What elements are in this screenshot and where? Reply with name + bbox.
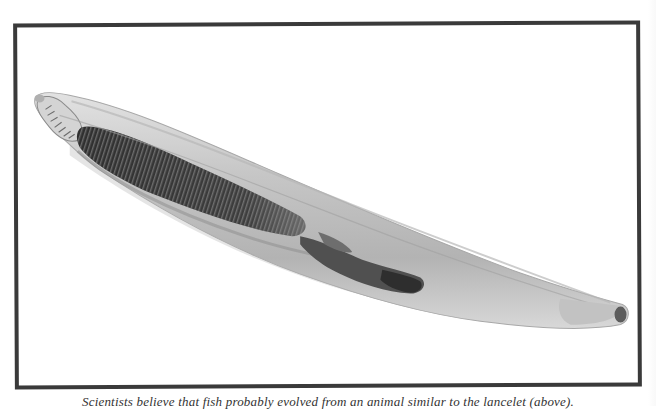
tail-tip [614,307,626,323]
page-edge [648,0,656,406]
photo-frame [13,20,642,389]
lancelet-body [35,90,629,331]
figure-caption: Scientists believe that fish probably ev… [0,394,656,410]
lancelet-photo [13,20,642,389]
rostrum-tip [34,94,44,102]
